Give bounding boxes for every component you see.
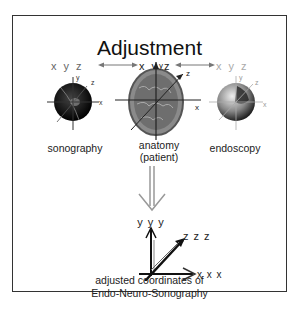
sonography-image: y z x xyxy=(39,72,109,134)
svg-text:z: z xyxy=(91,79,95,86)
svg-text:y: y xyxy=(159,61,163,70)
anatomy-label-line2: (patient) xyxy=(119,151,199,163)
svg-text:x: x xyxy=(99,99,103,106)
diagram-title: Adjustment xyxy=(13,36,286,60)
anatomy-brain-image: y z x xyxy=(113,60,205,140)
diagram-frame: Adjustment x y z x y z x y z y z x sonog… xyxy=(12,15,287,292)
svg-text:x: x xyxy=(263,101,267,108)
sonography-label: sonography xyxy=(35,142,115,154)
down-arrow-icon xyxy=(134,166,170,212)
result-z-labels: z z z xyxy=(183,230,223,242)
caption-line1: adjusted coordinates of xyxy=(13,273,286,287)
svg-text:y: y xyxy=(239,74,243,82)
endoscopy-image: y z x xyxy=(203,72,273,134)
endoscopy-label: endoscopy xyxy=(195,142,275,154)
svg-text:x: x xyxy=(195,103,199,112)
svg-text:z: z xyxy=(255,79,259,86)
sonography-coords: x y z xyxy=(51,60,84,72)
anatomy-label-line1: anatomy xyxy=(119,139,199,151)
svg-text:z: z xyxy=(186,69,190,78)
caption-line2: Endo-Neuro-Sonography xyxy=(0,286,299,300)
svg-text:y: y xyxy=(76,74,80,82)
endoscopy-coords: x y z xyxy=(216,60,249,72)
